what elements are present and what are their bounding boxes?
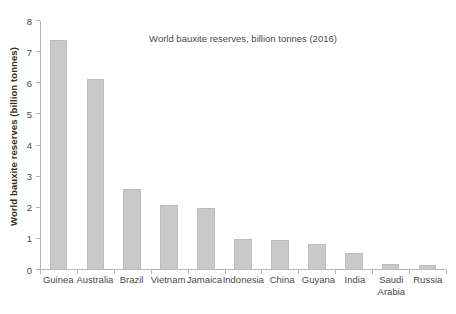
x-tick-label: SaudiArabia [373,274,409,297]
x-tick-label: India [337,274,373,297]
bar-jamaica[interactable] [197,208,215,270]
y-tick-label: 1 [27,233,32,244]
bar-india[interactable] [345,253,363,270]
x-tick-label-line: Saudi [373,274,409,286]
y-tick-label: 3 [27,171,32,182]
y-tick-label: 4 [27,140,32,151]
x-tick-label: Vietnam [150,274,186,297]
bar-russia[interactable] [419,265,437,270]
bar-slot [261,21,298,270]
y-tick-label: 8 [27,15,32,26]
x-tick-label: Indonesia [223,274,264,297]
bar-slot [298,21,335,270]
x-tick-label-line: Arabia [373,286,409,298]
plot-area: 012345678 [40,21,446,270]
x-tick-label: Australia [76,274,113,297]
bar-slot [40,21,77,270]
bar-slot [77,21,114,270]
bar-saudi-arabia[interactable] [382,264,400,270]
bar-indonesia[interactable] [234,239,252,270]
x-tick-label: Guyana [300,274,336,297]
y-tick-label: 0 [27,264,32,275]
y-tick-label: 2 [27,202,32,213]
y-axis-label-text: World bauxite reserves (billion tonnes) [8,47,19,226]
bar-slot [151,21,188,270]
x-tick-label: China [264,274,300,297]
bar-chart-figure: World bauxite reserves (billion tonnes) … [0,0,456,314]
y-tick-label: 5 [27,108,32,119]
y-tick-label: 6 [27,77,32,88]
bar-china[interactable] [271,240,289,270]
bar-australia[interactable] [87,79,105,270]
bar-brazil[interactable] [123,189,141,270]
x-tick-label: Brazil [113,274,149,297]
bar-slot [114,21,151,270]
x-tick-label: Jamaica [186,274,222,297]
x-tick-label: Russia [410,274,446,297]
y-tick-label: 7 [27,46,32,57]
x-tick-label: Guinea [40,274,76,297]
bar-guyana[interactable] [308,244,326,270]
bar-slot [372,21,409,270]
y-axis-label: World bauxite reserves (billion tonnes) [4,0,22,272]
bar-slot [335,21,372,270]
bar-series [40,21,446,270]
bar-guinea[interactable] [50,40,68,270]
bar-slot [225,21,262,270]
bar-slot [409,21,446,270]
x-tick [446,270,447,274]
bar-slot [188,21,225,270]
x-axis-tick-labels: GuineaAustraliaBrazilVietnamJamaicaIndon… [40,274,446,297]
bar-vietnam[interactable] [160,205,178,270]
